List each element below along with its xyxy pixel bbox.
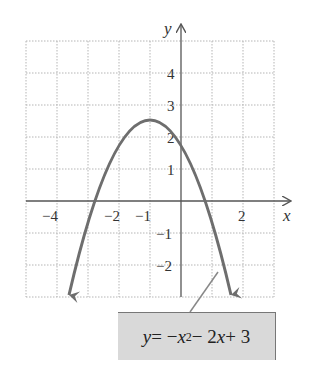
eq-x: x — [177, 326, 185, 348]
y-axis-label: y — [162, 19, 172, 38]
eq-end: + 3 — [225, 326, 250, 348]
x-tick-label: 2 — [238, 208, 246, 224]
grid — [26, 41, 274, 297]
x-tick-label: −1 — [135, 208, 151, 224]
y-tick-label: 4 — [167, 66, 175, 82]
eq-mid: − 2 — [192, 326, 217, 348]
eq-equals: = − — [151, 326, 177, 348]
equation-label-box: y = −x2 − 2x + 3 — [118, 312, 276, 360]
y-tick-label: 3 — [167, 98, 175, 114]
y-tick-label: −1 — [156, 226, 172, 242]
eq-x2: x — [217, 326, 225, 348]
y-tick-label: −2 — [156, 258, 172, 274]
x-tick-label: −4 — [42, 208, 58, 224]
eq-y: y — [143, 326, 151, 348]
annotation-leader-line — [190, 272, 218, 312]
y-tick-label: 1 — [167, 162, 175, 178]
x-axis-label: x — [282, 206, 291, 225]
x-tick-label: −2 — [104, 208, 120, 224]
